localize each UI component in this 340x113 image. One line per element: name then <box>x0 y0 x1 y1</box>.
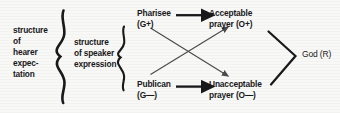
speaker-line-1: structure <box>74 37 109 47</box>
node-speaker-expression: structureof speakerexpression <box>74 37 116 70</box>
hearer-line-4: expec- <box>13 58 38 68</box>
publican-marker: (G—) <box>137 90 157 100</box>
diagram-canvas: structureofhearerexpec-tation structureo… <box>0 0 340 113</box>
outer-brace-icon <box>57 11 65 104</box>
publican-name: Publican <box>137 79 171 89</box>
arrow-pharisee-to-unacceptable <box>151 28 225 74</box>
speaker-line-3: expression <box>74 59 116 69</box>
node-unacceptable-prayer: Unacceptableprayer (O—) <box>209 79 262 100</box>
hearer-line-2: of <box>13 36 21 46</box>
node-pharisee: Pharisee(G+) <box>137 8 171 29</box>
unacceptable-line-1: Unacceptable <box>209 79 262 89</box>
node-acceptable-prayer: Acceptableprayer (O+) <box>209 8 252 29</box>
acceptable-line-1: Acceptable <box>209 8 252 18</box>
node-publican: Publican(G—) <box>137 79 171 100</box>
node-god: God (R) <box>302 49 331 60</box>
unacceptable-line-2: prayer (O—) <box>209 90 256 100</box>
god-brace-icon <box>269 32 296 85</box>
node-hearer-expectation: structureofhearerexpec-tation <box>13 25 48 80</box>
inner-brace-icon <box>118 27 124 91</box>
acceptable-line-2: prayer (O+) <box>209 19 252 29</box>
hearer-line-1: structure <box>13 25 48 35</box>
hearer-line-5: tation <box>13 69 35 79</box>
hearer-line-3: hearer <box>13 47 37 57</box>
speaker-line-2: of speaker <box>74 48 114 58</box>
arrow-publican-to-acceptable <box>151 30 225 75</box>
pharisee-marker: (G+) <box>137 19 153 29</box>
pharisee-name: Pharisee <box>137 8 171 18</box>
